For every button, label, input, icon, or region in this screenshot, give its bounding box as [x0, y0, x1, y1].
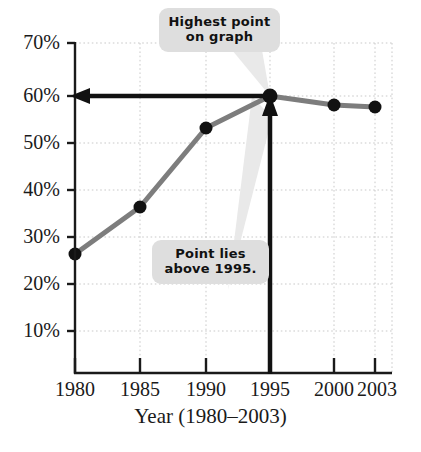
- data-point-1985[interactable]: [134, 201, 147, 214]
- x-tick-label-1980: 1980: [40, 378, 110, 401]
- y-axis: [67, 42, 75, 374]
- data-line: [75, 96, 375, 254]
- horizontal-gridlines: [75, 43, 392, 331]
- callout-point-above-1995: Point lies above 1995.: [152, 240, 269, 284]
- callout-highest-line2: on graph: [168, 29, 271, 44]
- y-tick-label-40: 40%: [4, 178, 60, 201]
- y-tick-label-50: 50%: [4, 131, 60, 154]
- y-tick-label-60: 60%: [4, 84, 60, 107]
- x-tick-label-1990: 1990: [171, 378, 241, 401]
- y-tick-label-30: 30%: [4, 225, 60, 248]
- callout-above-line2: above 1995.: [161, 261, 260, 276]
- y-tick-label-20: 20%: [4, 272, 60, 295]
- data-point-1990[interactable]: [200, 122, 213, 135]
- callout-above-line1: Point lies: [161, 246, 260, 261]
- callout-highest-line1: Highest point: [168, 14, 271, 29]
- y-tick-label-10: 10%: [4, 319, 60, 342]
- callout-tail-highest: [232, 50, 270, 96]
- data-point-2003[interactable]: [369, 101, 382, 114]
- x-axis: [74, 358, 392, 373]
- data-point-2000[interactable]: [328, 99, 341, 112]
- x-tick-label-1985: 1985: [105, 378, 175, 401]
- line-chart: 70% 60% 50% 40% 30% 20% 10% 1980 1985 19…: [0, 0, 421, 452]
- x-tick-label-1995: 1995: [235, 378, 305, 401]
- y-tick-label-70: 70%: [4, 31, 60, 54]
- x-tick-label-2003: 2003: [342, 378, 412, 401]
- data-markers: [69, 89, 382, 261]
- x-axis-title: Year (1980–2003): [0, 404, 421, 429]
- value-arrow-head: [70, 88, 90, 104]
- callout-highest-point: Highest point on graph: [159, 8, 280, 52]
